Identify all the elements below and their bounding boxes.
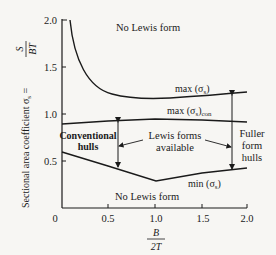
- y-axis-label: Sectional area coefficient σs = S BT: [14, 41, 38, 208]
- lewis-pointer-right: [205, 140, 231, 147]
- annotation-conventional-1: Conventional: [59, 130, 116, 141]
- x-tick: 1.0: [149, 213, 162, 224]
- series-max-sigma-label: max (σs): [175, 83, 210, 96]
- y-tick-labels: 2.0 1.5 1.0 0.5: [44, 15, 57, 167]
- svg-text:Sectional area coefficient σs: Sectional area coefficient σs =: [20, 87, 33, 208]
- x-axis-label: B 2T: [147, 227, 165, 252]
- svg-text:B: B: [153, 227, 159, 238]
- y-tick: 2.0: [44, 15, 57, 26]
- x-tick: 1.5: [196, 213, 209, 224]
- svg-text:S: S: [14, 47, 25, 52]
- series-min-sigma-line: [62, 152, 247, 181]
- x-tick: 0: [52, 213, 57, 224]
- annotation-lewis-1: Lewis forms: [149, 130, 202, 141]
- y-tick: 0.5: [44, 156, 57, 167]
- series-max-sigma-con-label: max (σs)con: [167, 105, 212, 118]
- annotation-fuller-2: form: [242, 140, 262, 151]
- svg-text:2T: 2T: [151, 241, 163, 252]
- annotation-fuller-3: hulls: [242, 152, 262, 163]
- series-max-sigma-con-line: [62, 119, 247, 124]
- lewis-pointer-left: [119, 140, 143, 146]
- annotation-conventional-2: hulls: [78, 141, 99, 152]
- x-tick: 2.0: [240, 213, 253, 224]
- y-tick: 1.0: [44, 109, 57, 120]
- x-tick: 0.5: [101, 213, 114, 224]
- annotation-no-lewis-top: No Lewis form: [116, 22, 180, 33]
- annotation-lewis-2: available: [156, 142, 194, 153]
- y-tick: 1.5: [44, 62, 57, 73]
- annotation-fuller-1: Fuller: [239, 128, 265, 139]
- annotation-no-lewis-bottom: No Lewis form: [115, 191, 179, 202]
- svg-text:BT: BT: [27, 42, 38, 55]
- chart-canvas: 2.0 1.5 1.0 0.5 0 0.5 1.0 1.5 2.0 B 2T S…: [0, 0, 276, 255]
- series-min-sigma-label: min (σs): [188, 178, 221, 191]
- x-tick-labels: 0 0.5 1.0 1.5 2.0: [52, 213, 253, 224]
